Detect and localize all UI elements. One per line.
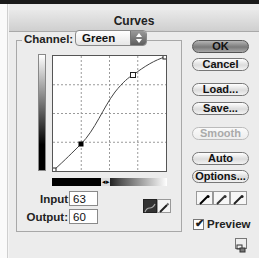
output-gradient-bar [38, 54, 46, 171]
expand-icon [236, 244, 246, 253]
curve-point-selected [79, 142, 84, 147]
black-point-eyedropper[interactable] [196, 191, 213, 205]
channel-select[interactable]: Green [75, 30, 147, 46]
gradient-toggle-icon[interactable]: ◂▸ [101, 178, 110, 186]
options-button[interactable]: Options... [192, 170, 249, 183]
gray-point-eyedropper[interactable] [213, 191, 230, 205]
dialog-title: Curves [9, 14, 259, 28]
white-point-eyedropper-icon [231, 194, 246, 206]
black-point-eyedropper-icon [197, 194, 212, 206]
output-label: Output: [24, 211, 68, 223]
curve-point-2 [131, 73, 136, 78]
white-point-eyedropper[interactable] [230, 191, 247, 205]
cancel-button[interactable]: Cancel [192, 58, 249, 71]
curve-mode-button[interactable] [143, 199, 157, 213]
input-field[interactable]: 63 [69, 191, 98, 206]
preview-label: Preview [207, 218, 250, 230]
preview-checkbox[interactable]: ✔ [193, 219, 204, 230]
channel-label: Channel: [22, 33, 75, 45]
gray-point-eyedropper-icon [214, 194, 229, 206]
input-label: Input: [40, 193, 68, 205]
expand-dialog-button[interactable] [235, 238, 247, 249]
curve-mode-icon [144, 202, 156, 214]
preview-option[interactable]: ✔ Preview [193, 218, 250, 230]
auto-button[interactable]: Auto [192, 152, 249, 165]
background-panel-edge [0, 4, 8, 258]
title-bar[interactable]: Curves [9, 10, 259, 32]
select-arrows-icon [130, 31, 146, 45]
curve-point-0 [53, 168, 56, 171]
ok-button[interactable]: OK [192, 40, 249, 53]
eyedropper-group [196, 191, 247, 205]
load-button[interactable]: Load... [192, 83, 249, 96]
save-button[interactable]: Save... [192, 102, 249, 115]
pencil-mode-icon [158, 202, 170, 214]
curve-point-3 [163, 56, 166, 59]
channel-value: Green [82, 32, 115, 44]
pencil-mode-button[interactable] [157, 199, 171, 213]
curve-graph[interactable] [52, 55, 167, 172]
smooth-button[interactable]: Smooth [192, 127, 249, 140]
curve-plot [53, 56, 166, 171]
output-field[interactable]: 60 [69, 209, 98, 224]
checkmark-icon: ✔ [195, 217, 204, 230]
